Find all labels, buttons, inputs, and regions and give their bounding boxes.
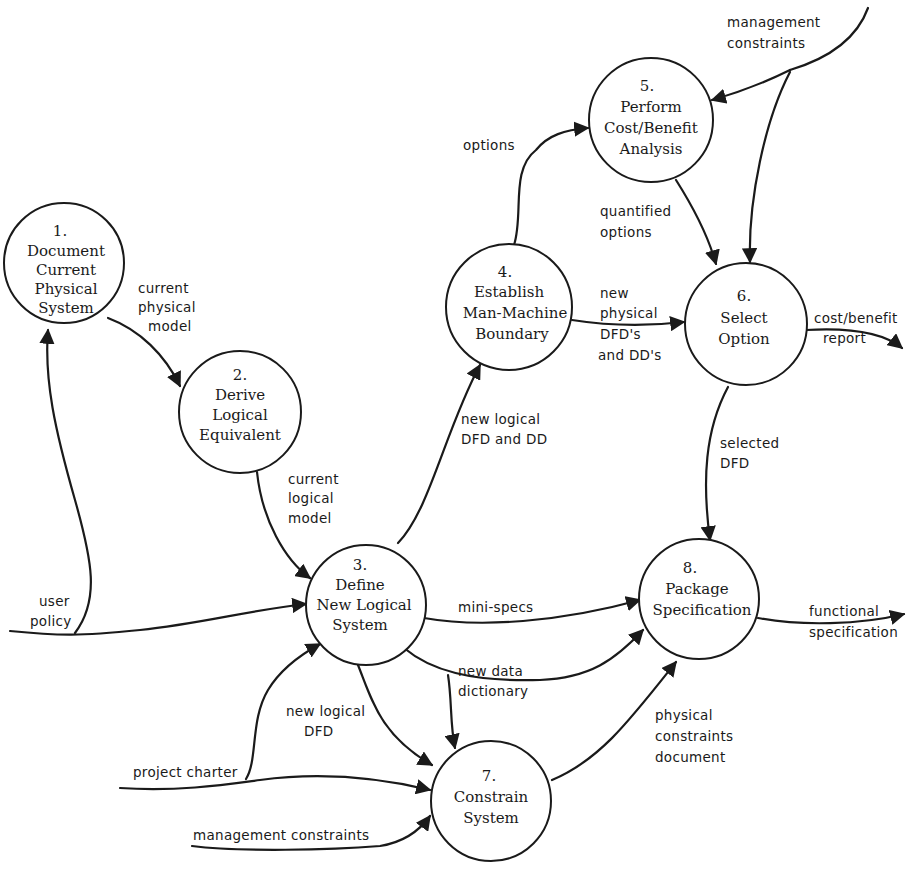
process-2-line: Derive (215, 386, 265, 404)
process-1-line: Physical (35, 280, 98, 298)
process-3[interactable]: 3. Define New Logical System (306, 545, 426, 665)
process-8-number: 8. (683, 559, 697, 577)
process-4-number: 4. (498, 263, 512, 281)
flow-label-line: options (600, 224, 652, 240)
process-7-number: 7. (482, 767, 496, 785)
flow-label-line: cost/benefit (814, 310, 898, 326)
process-7-line: System (463, 809, 519, 827)
label-project-charter: project charter (133, 764, 238, 780)
flow-label-line: new logical (286, 703, 365, 719)
process-6-line: Option (718, 330, 770, 348)
flow-label-line: dictionary (458, 683, 528, 699)
data-flow-diagram: 1. Document Current Physical System 2. D… (0, 0, 908, 871)
label-new-logical-dfd: new logical DFD (286, 703, 365, 739)
label-current-physical-model: current physical model (138, 280, 196, 334)
process-8-line: Package (665, 580, 728, 598)
label-user-policy: user policy (30, 593, 72, 629)
flow-user-policy-to-1 (47, 330, 91, 633)
process-7-line: Constrain (454, 788, 529, 806)
label-selected-dfd: selected DFD (720, 435, 779, 471)
label-options: options (463, 137, 515, 153)
label-new-logical-dfd-dd: new logical DFD and DD (461, 411, 547, 447)
flow-label-line: model (148, 318, 192, 334)
flow-labels: current physical model current logical m… (30, 14, 898, 843)
flow-new-data-dictionary-to-7 (448, 675, 455, 748)
flow-new-data-dictionary (404, 630, 643, 680)
flow-options (514, 128, 588, 245)
flow-label-line: constraints (727, 35, 805, 51)
flow-label-line: functional (809, 603, 879, 619)
flow-label-line: options (463, 137, 515, 153)
process-2[interactable]: 2. Derive Logical Equivalent (179, 351, 301, 473)
flow-label-line: report (823, 330, 866, 346)
process-8[interactable]: 8. Package Specification (639, 539, 759, 659)
process-6[interactable]: 6. Select Option (685, 263, 807, 385)
process-2-line: Equivalent (199, 426, 281, 444)
flow-label-line: constraints (655, 728, 733, 744)
process-1-line: Document (27, 242, 105, 260)
flow-label-line: document (655, 749, 726, 765)
label-quantified-options: quantified options (600, 203, 671, 240)
process-5-line: Analysis (619, 140, 683, 158)
process-1[interactable]: 1. Document Current Physical System (4, 203, 124, 323)
flow-new-logical-dfd-dd (398, 365, 480, 543)
flow-label-line: DFD (304, 723, 333, 739)
flow-label-line: specification (809, 624, 898, 640)
process-1-line: System (38, 299, 94, 317)
process-1-line: Current (36, 261, 96, 279)
process-4-line: Man-Machine (463, 304, 568, 322)
flow-label-line: management constraints (193, 827, 369, 843)
label-physical-constraints-document: physical constraints document (655, 707, 733, 765)
process-3-line: New Logical (316, 596, 411, 614)
flow-label-line: project charter (133, 764, 238, 780)
process-1-number: 1. (53, 222, 67, 240)
flow-label-line: user (39, 593, 70, 609)
flow-label-line: DFD (720, 455, 749, 471)
process-3-line: Define (335, 576, 385, 594)
flow-label-line: policy (30, 613, 72, 629)
process-5[interactable]: 5. Perform Cost/Benefit Analysis (589, 58, 713, 182)
flow-new-logical-dfd (358, 665, 432, 765)
flow-label-line: current (138, 280, 189, 296)
flow-label-line: new (600, 285, 629, 301)
flow-label-line: current (288, 471, 339, 487)
process-4[interactable]: 4. Establish Man-Machine Boundary (446, 244, 572, 370)
flow-quantified-options (676, 180, 716, 264)
process-8-line: Specification (653, 601, 752, 619)
flow-label-line: selected (720, 435, 779, 451)
process-4-line: Establish (474, 283, 545, 301)
process-5-number: 5. (640, 77, 654, 95)
process-4-line: Boundary (475, 325, 549, 343)
label-management-constraints-bottom: management constraints (193, 827, 369, 843)
label-management-constraints-top: management constraints (727, 14, 820, 51)
flow-label-line: quantified (600, 203, 671, 219)
flow-label-line: physical (600, 305, 658, 321)
flow-label-line: DFD and DD (461, 431, 547, 447)
flow-label-line: new logical (461, 411, 540, 427)
process-5-line: Cost/Benefit (604, 119, 698, 137)
process-7[interactable]: 7. Constrain System (431, 741, 551, 861)
flow-label-line: logical (288, 490, 334, 506)
flows (10, 8, 904, 850)
label-cost-benefit-report: cost/benefit report (814, 310, 898, 346)
process-3-line: System (332, 616, 388, 634)
process-5-line: Perform (620, 98, 681, 116)
process-6-number: 6. (737, 287, 751, 305)
flow-label-line: physical (138, 299, 196, 315)
process-2-number: 2. (233, 366, 247, 384)
process-3-number: 3. (353, 556, 367, 574)
flow-label-line: model (288, 510, 332, 526)
process-2-line: Logical (212, 406, 268, 424)
process-6-line: Select (720, 309, 767, 327)
flow-label-line: physical (655, 707, 713, 723)
label-current-logical-model: current logical model (288, 471, 339, 526)
flow-management-constraints-to-6 (750, 72, 790, 262)
flow-label-line: new data (458, 663, 523, 679)
flow-label-line: and DD's (598, 347, 662, 363)
flow-label-line: management (727, 14, 820, 30)
flow-label-line: mini-specs (458, 599, 533, 615)
flow-label-line: DFD's (600, 326, 641, 342)
label-mini-specs: mini-specs (458, 599, 533, 615)
